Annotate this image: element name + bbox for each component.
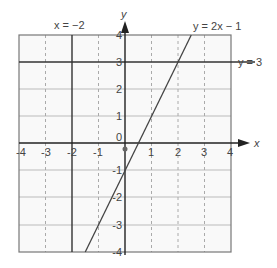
label-y-eq-3: y = 3 — [238, 56, 262, 68]
y-tick: -3 — [112, 219, 122, 231]
y-axis-arrow-icon — [121, 21, 129, 33]
y-axis-label: y — [120, 8, 128, 20]
x-axis-label: x — [253, 137, 260, 149]
label-x-eq-neg2: x = −2 — [54, 19, 85, 31]
label-y-eq-2x-minus-1: y = 2x − 1 — [193, 20, 241, 32]
graph: -4 -3 -2 -1 1 2 3 4 4 3 2 1 0 -1 -2 -3 -… — [0, 0, 277, 268]
x-tick: 3 — [201, 146, 207, 158]
y-tick: -4 — [112, 246, 122, 258]
y-tick: -2 — [112, 191, 122, 203]
y-tick: 3 — [116, 56, 122, 68]
x-axis-arrow-icon — [238, 139, 250, 147]
origin-dot — [123, 147, 128, 152]
y-tick: 4 — [116, 29, 122, 41]
y-tick: 2 — [116, 83, 122, 95]
origin-label: 0 — [116, 131, 122, 143]
x-tick: 4 — [227, 146, 233, 158]
x-tick: 2 — [175, 146, 181, 158]
x-tick: -2 — [67, 146, 77, 158]
x-tick: 1 — [148, 146, 154, 158]
x-tick: -3 — [41, 146, 51, 158]
x-tick: -1 — [93, 146, 103, 158]
y-tick: -1 — [112, 164, 122, 176]
y-tick: 1 — [116, 110, 122, 122]
x-tick: -4 — [16, 146, 26, 158]
